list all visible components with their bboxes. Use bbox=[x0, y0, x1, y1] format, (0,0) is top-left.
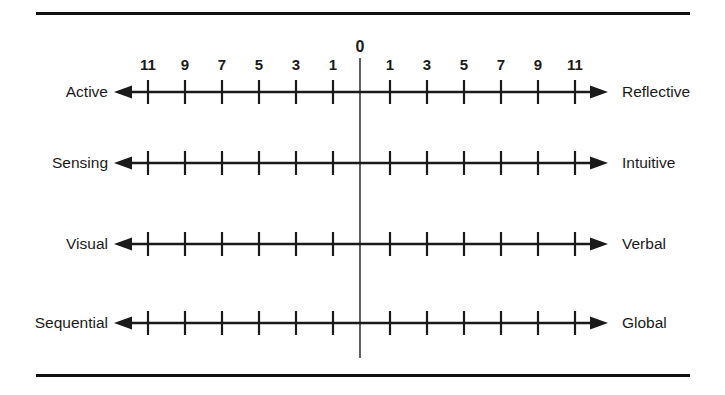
scale-row-sequential-global: Sequential Global bbox=[35, 311, 667, 335]
arrow-left-icon-row-3 bbox=[114, 238, 132, 251]
pole-label-right-verbal: Verbal bbox=[622, 235, 666, 252]
arrow-right-icon-row-4 bbox=[590, 317, 608, 330]
tick-label-left-1: 1 bbox=[329, 56, 337, 73]
pole-label-right-intuitive: Intuitive bbox=[622, 154, 675, 171]
tick-label-left-11: 11 bbox=[140, 56, 156, 73]
tick-label-right-11: 11 bbox=[567, 56, 583, 73]
pole-label-left-sensing: Sensing bbox=[52, 154, 108, 171]
tick-label-right-3: 3 bbox=[423, 56, 431, 73]
arrow-left-icon-row-2 bbox=[114, 157, 132, 170]
pole-label-left-sequential: Sequential bbox=[35, 314, 108, 331]
learning-styles-diagram: 11 9 7 5 3 1 0 1 3 5 7 9 11 Active bbox=[0, 0, 725, 395]
arrow-right-icon-row-3 bbox=[590, 238, 608, 251]
scale-row-sensing-intuitive: Sensing Intuitive bbox=[52, 151, 675, 175]
pole-label-left-active: Active bbox=[66, 83, 108, 100]
tick-label-left-3: 3 bbox=[292, 56, 300, 73]
tick-label-left-9: 9 bbox=[181, 56, 189, 73]
tick-label-left-7: 7 bbox=[218, 56, 226, 73]
scale-row-visual-verbal: Visual Verbal bbox=[66, 232, 666, 256]
tick-label-right-1: 1 bbox=[386, 56, 394, 73]
tick-label-right-7: 7 bbox=[497, 56, 505, 73]
arrow-left-icon-row-4 bbox=[114, 317, 132, 330]
tick-label-center-0: 0 bbox=[356, 38, 365, 55]
pole-label-right-reflective: Reflective bbox=[622, 83, 690, 100]
tick-label-right-5: 5 bbox=[460, 56, 468, 73]
figure-canvas: 11 9 7 5 3 1 0 1 3 5 7 9 11 Active bbox=[0, 0, 725, 395]
arrow-left-icon-row-1 bbox=[114, 86, 132, 99]
tick-label-left-5: 5 bbox=[255, 56, 263, 73]
scale-row-active-reflective: Active Reflective bbox=[66, 80, 690, 104]
pole-label-right-global: Global bbox=[622, 314, 667, 331]
arrow-right-icon-row-2 bbox=[590, 157, 608, 170]
pole-label-left-visual: Visual bbox=[66, 235, 108, 252]
arrow-right-icon-row-1 bbox=[590, 86, 608, 99]
tick-label-right-9: 9 bbox=[534, 56, 542, 73]
